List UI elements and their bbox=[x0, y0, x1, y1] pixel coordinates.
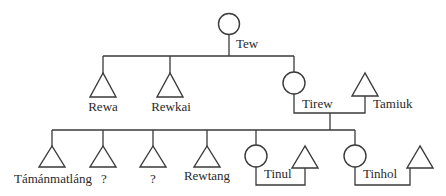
person-tirew: Tirew bbox=[283, 72, 333, 111]
female-circle-icon bbox=[283, 72, 305, 94]
male-triangle-icon bbox=[292, 146, 318, 168]
person-rewkai: Rewkai bbox=[151, 73, 191, 114]
person-tinul: Tinul bbox=[245, 145, 292, 181]
male-triangle-icon bbox=[194, 146, 220, 167]
female-circle-icon bbox=[219, 14, 240, 35]
person-tinhol: Tinhol bbox=[344, 145, 398, 181]
male-triangle-icon bbox=[90, 73, 116, 97]
label-rewtang: Rewtang bbox=[184, 168, 231, 183]
male-triangle-icon bbox=[90, 146, 116, 167]
person-tamiuk: Tamiuk bbox=[352, 73, 413, 111]
label-tinul: Tinul bbox=[264, 166, 292, 181]
label-tinhol: Tinhol bbox=[363, 166, 398, 181]
male-triangle-icon bbox=[407, 146, 433, 168]
person-tinhol-spouse bbox=[407, 146, 433, 168]
person-tinul-spouse bbox=[292, 146, 318, 168]
person-rewa: Rewa bbox=[88, 73, 118, 114]
male-triangle-icon bbox=[39, 146, 65, 167]
label-unknown1: ? bbox=[101, 171, 107, 186]
female-circle-icon bbox=[344, 145, 366, 167]
kinship-diagram: Tew Rewa Rewkai Tirew Tamiuk Támánmatlán… bbox=[0, 0, 446, 196]
male-triangle-icon bbox=[157, 73, 183, 97]
male-triangle-icon bbox=[140, 146, 166, 167]
person-tamanmatlang: Támánmatláng bbox=[14, 146, 92, 186]
label-rewkai: Rewkai bbox=[151, 99, 191, 114]
label-tamiuk: Tamiuk bbox=[373, 96, 413, 111]
male-triangle-icon bbox=[352, 73, 378, 96]
female-circle-icon bbox=[245, 145, 267, 167]
person-unknown2: ? bbox=[140, 146, 166, 186]
label-unknown2: ? bbox=[150, 171, 156, 186]
label-tew: Tew bbox=[236, 36, 259, 51]
person-rewtang: Rewtang bbox=[184, 146, 231, 183]
label-tamanmatlang: Támánmatláng bbox=[14, 171, 92, 186]
person-tew: Tew bbox=[219, 14, 259, 52]
label-tirew: Tirew bbox=[302, 96, 333, 111]
label-rewa: Rewa bbox=[88, 99, 118, 114]
person-unknown1: ? bbox=[90, 146, 116, 186]
